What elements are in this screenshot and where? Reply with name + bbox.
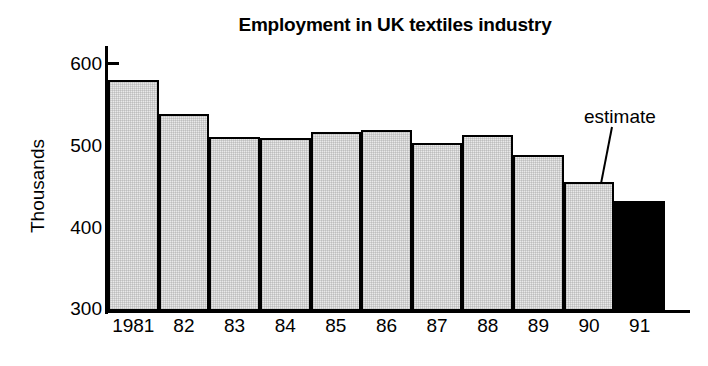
bar-88 [462, 135, 513, 311]
x-tick-label-86: 86 [361, 315, 412, 337]
bar-89 [513, 155, 564, 311]
bar-91 [614, 201, 665, 311]
bar-85 [311, 132, 362, 311]
x-tick-label-87: 87 [412, 315, 463, 337]
y-tick-mark-600 [105, 62, 119, 65]
y-tick-label-500: 500 [56, 135, 102, 157]
bar-84 [260, 138, 311, 311]
x-tick-label-82: 82 [159, 315, 210, 337]
y-axis-tick-group: 600 500 400 300 [44, 0, 102, 366]
y-tick-label-300: 300 [56, 298, 102, 320]
bar-87 [412, 143, 463, 311]
x-tick-label-90: 90 [564, 315, 615, 337]
x-tick-label-91: 91 [614, 315, 665, 337]
bar-90 [564, 182, 615, 311]
bar-82 [159, 114, 210, 311]
x-tick-label-1981: 1981 [108, 315, 159, 337]
bar-83 [209, 137, 260, 311]
caption-fragment [8, 349, 408, 358]
y-tick-label-600: 600 [56, 53, 102, 75]
bar-1981 [108, 80, 159, 311]
bar-chart-figure: Employment in UK textiles industry Thous… [0, 0, 708, 366]
x-tick-label-88: 88 [462, 315, 513, 337]
bar-86 [361, 130, 412, 311]
page-title: Employment in UK textiles industry [190, 14, 600, 36]
estimate-annotation-label: estimate [584, 106, 656, 128]
x-tick-label-84: 84 [260, 315, 311, 337]
x-tick-label-89: 89 [513, 315, 564, 337]
x-tick-label-85: 85 [311, 315, 362, 337]
y-tick-label-400: 400 [56, 217, 102, 239]
x-tick-label-83: 83 [209, 315, 260, 337]
